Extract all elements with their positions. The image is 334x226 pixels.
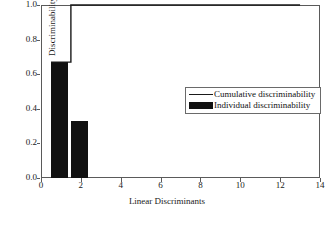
legend-label-cumulative: Cumulative discriminability — [214, 89, 315, 100]
legend: Cumulative discriminability Individual d… — [185, 87, 321, 114]
x-tick-mark — [200, 178, 201, 182]
y-tick-mark — [37, 109, 40, 110]
legend-item-cumulative: Cumulative discriminability — [188, 89, 318, 100]
y-tick-mark — [37, 143, 40, 144]
x-tick-label: 8 — [188, 181, 212, 190]
x-axis-label: Linear Discriminants — [0, 196, 334, 206]
chart-figure: 0.00.20.40.60.81.0 02468101214 Discrimin… — [0, 0, 334, 226]
x-tick-mark — [280, 178, 281, 182]
y-tick-label: 0.2 — [7, 138, 37, 147]
x-tick-label: 6 — [149, 181, 173, 190]
x-tick-label: 12 — [268, 181, 292, 190]
legend-swatch-key-icon — [188, 102, 214, 109]
y-tick-label: 0.4 — [7, 104, 37, 113]
x-tick-mark — [121, 178, 122, 182]
x-tick-label: 4 — [109, 181, 133, 190]
x-tick-mark — [81, 178, 82, 182]
x-tick-label: 0 — [29, 181, 53, 190]
y-tick-label: 0.8 — [7, 35, 37, 44]
x-tick-mark — [161, 178, 162, 182]
y-axis-label: Discriminability ratio — [47, 0, 57, 96]
y-tick-label: 1.0 — [7, 0, 37, 9]
x-tick-mark — [320, 178, 321, 182]
legend-line-key-icon — [188, 94, 214, 95]
x-tick-mark — [240, 178, 241, 182]
x-tick-label: 14 — [308, 181, 332, 190]
y-tick-mark — [37, 40, 40, 41]
y-tick-mark — [37, 5, 40, 6]
x-tick-mark — [41, 178, 42, 182]
legend-label-individual: Individual discriminability — [214, 100, 310, 111]
legend-item-individual: Individual discriminability — [188, 100, 318, 111]
y-tick-mark — [37, 178, 40, 179]
x-tick-label: 10 — [228, 181, 252, 190]
y-tick-label: 0.6 — [7, 69, 37, 78]
x-tick-label: 2 — [69, 181, 93, 190]
y-tick-mark — [37, 74, 40, 75]
